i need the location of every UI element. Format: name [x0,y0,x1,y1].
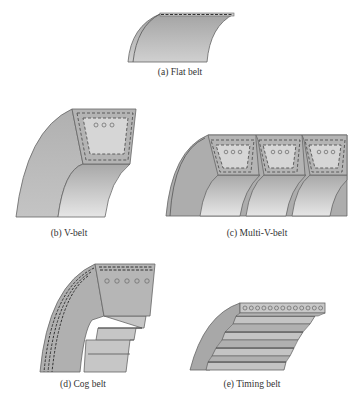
v-belt-illustration [16,109,136,217]
flat-belt-illustration [128,13,234,62]
caption-flat-belt: (a) Flat belt [158,67,202,77]
caption-multi-v-belt: (c) Multi-V-belt [227,228,288,238]
caption-cog-belt: (d) Cog belt [60,379,106,389]
belt-types-diagram [0,0,354,403]
caption-timing-belt: (e) Timing belt [223,379,280,389]
timing-belt-illustration [190,303,325,370]
multi-v-belt-illustration [166,135,347,216]
cog-belt-illustration [40,264,155,372]
caption-v-belt: (b) V-belt [51,228,88,238]
